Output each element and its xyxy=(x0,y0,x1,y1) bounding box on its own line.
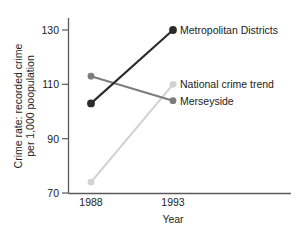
data-point-national-1993 xyxy=(170,81,177,88)
y-axis-title-line2: per 1,000 poopulation xyxy=(24,55,36,157)
data-point-national-1988 xyxy=(88,179,95,186)
x-axis-title: Year xyxy=(162,213,184,225)
y-tick-label-110: 110 xyxy=(42,78,59,90)
x-tick-label-1988: 1988 xyxy=(79,196,103,208)
chart-figure: 130 110 90 70 1988 1993 Year Crime rate:… xyxy=(0,0,298,230)
series-national-crime-trend xyxy=(88,81,177,186)
data-point-merseyside-1993 xyxy=(170,97,177,104)
series-merseyside-line xyxy=(91,76,173,101)
legend-label-national-crime-trend: National crime trend xyxy=(180,78,274,90)
data-point-merseyside-1988 xyxy=(88,73,95,80)
legend-label-metropolitan-districts: Metropolitan Districts xyxy=(180,24,278,36)
y-tick-label-90: 90 xyxy=(47,133,59,145)
y-tick-label-130: 130 xyxy=(41,24,59,36)
y-axis-ticks xyxy=(62,30,69,193)
y-tick-label-70: 70 xyxy=(47,187,59,199)
legend: Metropolitan Districts National crime tr… xyxy=(180,24,278,107)
series-metropolitan-line xyxy=(91,30,173,103)
series-national-line xyxy=(91,84,173,182)
series-merseyside xyxy=(88,73,177,104)
legend-label-merseyside: Merseyside xyxy=(180,95,234,107)
y-axis-tick-labels: 130 110 90 70 xyxy=(41,24,59,199)
y-axis-title-line1: Crime rate: recorded crime xyxy=(12,43,24,168)
x-tick-label-1993: 1993 xyxy=(161,196,185,208)
y-axis-title: Crime rate: recorded crime per 1,000 poo… xyxy=(12,43,36,168)
x-axis-tick-labels: 1988 1993 xyxy=(79,196,185,208)
crime-rate-line-chart: 130 110 90 70 1988 1993 Year Crime rate:… xyxy=(0,0,298,230)
data-point-metropolitan-1993 xyxy=(169,26,177,34)
data-point-metropolitan-1988 xyxy=(87,100,95,108)
